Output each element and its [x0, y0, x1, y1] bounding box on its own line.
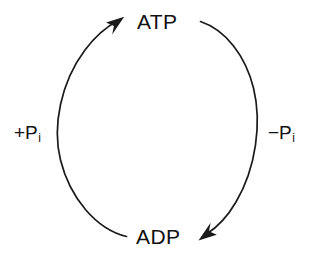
left-arc-group	[57, 17, 126, 237]
phosphorylation-arc-path	[57, 21, 126, 237]
hydrolysis-arrowhead	[199, 223, 217, 241]
node-label-atp: ATP	[137, 11, 177, 32]
hydrolysis-arc-path	[201, 22, 258, 235]
edge-label-phosphorylation: +Pi	[14, 123, 40, 142]
edge-label-hydrolysis: −Pi	[268, 123, 294, 142]
node-label-adp: ADP	[136, 226, 180, 247]
edge-label-phosphorylation-subscript: i	[38, 131, 41, 145]
right-arc-group	[199, 22, 258, 241]
edge-label-hydrolysis-text: −P	[268, 122, 292, 143]
edge-label-hydrolysis-subscript: i	[292, 131, 295, 145]
atp-adp-cycle-diagram: ATP ADP +Pi −Pi	[0, 0, 316, 261]
edge-label-phosphorylation-text: +P	[14, 122, 38, 143]
